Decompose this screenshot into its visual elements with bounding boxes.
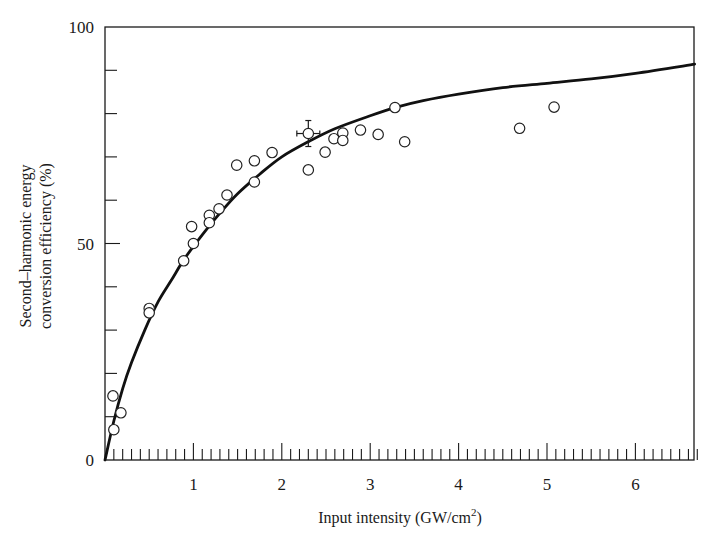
data-point-marker — [267, 147, 277, 157]
data-point-marker — [109, 424, 119, 434]
data-point-marker — [232, 160, 242, 170]
data-point-marker — [355, 125, 365, 135]
data-point-marker — [399, 137, 409, 147]
x-tick-label: 6 — [631, 475, 640, 494]
data-points — [108, 102, 560, 435]
data-point-marker — [144, 308, 154, 318]
y-axis-title-line-2: conversion efficiency (%) — [37, 163, 55, 329]
data-point-marker — [303, 128, 313, 138]
y-axis-title-line-1: Second–harmonic energy — [17, 165, 35, 328]
data-point-marker — [204, 218, 214, 228]
data-point-marker — [390, 102, 400, 112]
x-tick-label: 5 — [543, 475, 552, 494]
x-tick-label: 1 — [189, 475, 198, 494]
x-tick-label: 3 — [366, 475, 375, 494]
y-tick-label: 50 — [77, 235, 94, 254]
data-point-marker — [214, 204, 224, 214]
y-tick-labels: 050100 — [69, 18, 95, 470]
x-axis-ticks — [114, 443, 697, 460]
theory-line — [105, 64, 695, 460]
data-point-marker — [514, 123, 524, 133]
x-tick-labels: 123456 — [189, 475, 640, 494]
data-point-marker — [249, 177, 259, 187]
data-point-marker — [108, 391, 118, 401]
data-point-marker — [222, 190, 232, 200]
data-point-marker — [549, 102, 559, 112]
data-point-marker — [338, 135, 348, 145]
data-point-marker — [186, 221, 196, 231]
data-point-marker — [178, 256, 188, 266]
x-tick-label: 2 — [278, 475, 287, 494]
data-point-marker — [188, 238, 198, 248]
data-point-marker — [373, 129, 383, 139]
x-axis-title: Input intensity (GW/cm2) — [318, 506, 482, 527]
x-tick-label: 4 — [454, 475, 463, 494]
theory-curve — [105, 64, 695, 460]
data-point-marker — [303, 165, 313, 175]
data-point-marker — [249, 156, 259, 166]
y-tick-label: 100 — [69, 18, 95, 37]
data-point-marker — [116, 408, 126, 418]
y-axis-ticks — [105, 70, 120, 416]
y-tick-label: 0 — [86, 451, 95, 470]
chart: 123456 050100 Input intensity (GW/cm2) S… — [0, 0, 710, 537]
data-point-marker — [320, 147, 330, 157]
